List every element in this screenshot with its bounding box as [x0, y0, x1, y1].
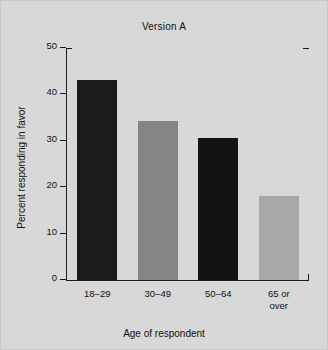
- frame-corner-top-right: [303, 48, 309, 49]
- y-axis-tick-label: 0: [52, 272, 57, 283]
- x-axis-tick-label: 65 or over: [249, 288, 310, 311]
- y-axis-title: Percent responding in favor: [13, 1, 29, 350]
- y-axis-line: [66, 48, 67, 281]
- bar-chart-figure: Version A Percent responding in favor 01…: [0, 0, 328, 350]
- y-axis-title-text: Percent responding in favor: [16, 106, 27, 228]
- x-axis-line: [66, 280, 309, 281]
- x-axis-tick-label: 18–29: [67, 288, 128, 300]
- y-axis-tick-label: 50: [46, 40, 57, 51]
- y-axis-tick: 30: [60, 140, 66, 141]
- y-axis-tick-label: 40: [46, 86, 57, 97]
- y-axis-tick-label: 30: [46, 133, 57, 144]
- x-axis-tick-label: 30–49: [128, 288, 189, 300]
- frame-corner-top-left: [66, 48, 72, 49]
- x-axis-title: Age of respondent: [1, 328, 327, 339]
- bar: [259, 196, 299, 280]
- bar: [138, 121, 178, 280]
- y-axis-tick: 50: [60, 47, 66, 48]
- chart-title: Version A: [1, 21, 327, 32]
- y-axis-tick: 0: [60, 279, 66, 280]
- y-axis-tick-label: 10: [46, 226, 57, 237]
- y-axis-tick: 20: [60, 186, 66, 187]
- y-axis-tick: 40: [60, 93, 66, 94]
- bar: [198, 138, 238, 280]
- y-axis-tick: 10: [60, 233, 66, 234]
- y-axis-tick-label: 20: [46, 179, 57, 190]
- bar: [77, 80, 117, 280]
- frame-corner-bottom-right: [308, 274, 309, 281]
- x-axis-tick-label: 50–64: [188, 288, 249, 300]
- plot-area: 01020304050 18–2930–4950–6465 or over: [67, 48, 309, 280]
